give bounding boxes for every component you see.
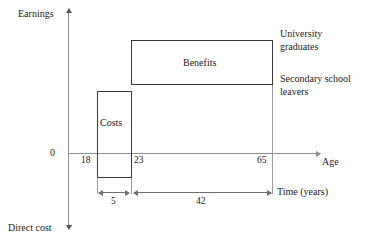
secondary-school-leavers-label-line2: leavers bbox=[280, 86, 308, 97]
university-graduates-label-line1: University bbox=[280, 28, 322, 39]
benefits-region-label: Benefits bbox=[183, 57, 216, 69]
direct-cost-axis-label: Direct cost bbox=[8, 222, 52, 234]
duration-42-right-arrow-icon bbox=[267, 190, 272, 196]
costs-region-box bbox=[97, 91, 132, 178]
age-tick-65: 65 bbox=[257, 155, 267, 166]
secondary-school-leavers-label-line1: Secondary school bbox=[280, 73, 351, 84]
duration-42-left-arrow-icon bbox=[133, 190, 138, 196]
duration-42-dimension-line bbox=[134, 192, 271, 193]
guide-line-age-65 bbox=[272, 85, 273, 194]
origin-label: 0 bbox=[50, 147, 55, 158]
secondary-school-leavers-label: Secondary schoolleavers bbox=[280, 72, 351, 98]
age-earnings-diagram: Earnings Direct cost 0 Age 18 23 65 Bene… bbox=[0, 0, 371, 241]
age-tick-23: 23 bbox=[134, 155, 144, 166]
vertical-axis-line bbox=[68, 13, 69, 225]
duration-5-left-arrow-icon bbox=[98, 190, 103, 196]
age-axis-label: Age bbox=[322, 156, 339, 168]
duration-5-label: 5 bbox=[111, 196, 116, 207]
university-graduates-label: Universitygraduates bbox=[280, 27, 322, 53]
age-tick-18: 18 bbox=[81, 155, 91, 166]
duration-42-label: 42 bbox=[196, 196, 206, 207]
duration-5-right-arrow-icon bbox=[125, 190, 130, 196]
time-years-label: Time (years) bbox=[277, 186, 328, 198]
earnings-axis-label: Earnings bbox=[18, 8, 54, 20]
direct-cost-axis-arrow-icon bbox=[66, 225, 72, 230]
guide-line-age-23 bbox=[131, 178, 132, 194]
costs-region-label: Costs bbox=[100, 117, 122, 129]
university-graduates-label-line2: graduates bbox=[280, 41, 318, 52]
age-axis-arrow-icon bbox=[316, 151, 321, 157]
earnings-axis-arrow-icon bbox=[66, 8, 72, 13]
